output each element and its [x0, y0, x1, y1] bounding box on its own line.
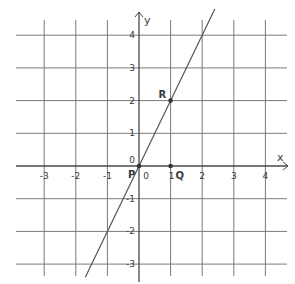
y-tick-label: 0 — [129, 155, 135, 165]
x-tick-label: 1 — [169, 171, 175, 181]
x-tick-label: -1 — [103, 171, 112, 181]
x-tick-label: -2 — [71, 171, 80, 181]
point-r-marker — [168, 98, 173, 103]
point-p-marker — [137, 164, 142, 169]
data-line — [85, 9, 215, 277]
y-tick-label: 3 — [129, 63, 135, 73]
point-q-label: Q — [176, 170, 185, 181]
y-axis-label: y — [144, 14, 151, 27]
x-tick-label: 4 — [263, 171, 269, 181]
y-tick-label: 4 — [129, 30, 135, 40]
axes: xy — [16, 12, 288, 282]
x-tick-label: 0 — [143, 171, 149, 181]
y-tick-label: -2 — [126, 226, 135, 236]
line-y-equals-2x — [85, 9, 215, 277]
point-p-label: P — [128, 169, 135, 180]
coordinate-plane: xy -3-2-123401-3-2-101234 PQR — [0, 0, 295, 284]
y-tick-label: 2 — [129, 96, 135, 106]
grid-lines — [16, 20, 287, 276]
x-axis-label: x — [277, 151, 284, 164]
point-r-label: R — [159, 89, 167, 100]
y-tick-label: 1 — [129, 128, 135, 138]
x-tick-label: -3 — [40, 171, 49, 181]
y-tick-label: -3 — [126, 259, 135, 269]
point-q-marker — [168, 164, 173, 169]
labeled-points: PQR — [128, 89, 184, 181]
x-tick-label: 3 — [231, 171, 237, 181]
x-tick-label: 2 — [199, 171, 205, 181]
y-tick-label: -1 — [126, 194, 135, 204]
